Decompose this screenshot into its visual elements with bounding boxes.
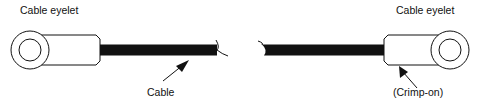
cable-label: Cable [147, 86, 174, 98]
left-eyelet-label: Cable eyelet [20, 4, 78, 16]
crimp-on-label: (Crimp-on) [393, 86, 443, 98]
crimp-arrow [399, 66, 417, 88]
right-cable-eyelet [384, 31, 469, 69]
left-cable [100, 40, 228, 56]
cable-eyelet-diagram: Cable eyelet Cable eyelet Cable (Crimp-o… [0, 0, 480, 111]
left-cable-eyelet [11, 31, 100, 69]
right-eyelet-label: Cable eyelet [396, 4, 454, 16]
cable-arrow [163, 60, 189, 81]
right-cable [258, 41, 385, 56]
